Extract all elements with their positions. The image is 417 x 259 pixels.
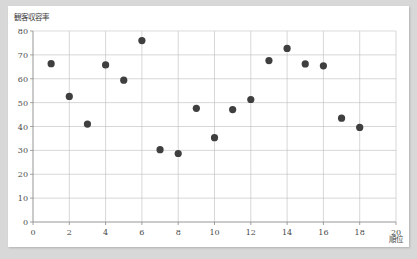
data-point[interactable]	[193, 105, 200, 112]
x-tick-label: 16	[318, 228, 328, 237]
data-point[interactable]	[84, 121, 91, 128]
y-tick-label: 80	[18, 27, 28, 36]
data-point[interactable]	[229, 106, 236, 113]
data-point[interactable]	[48, 60, 55, 67]
x-tick-label: 4	[103, 228, 108, 237]
x-tick-label: 6	[139, 228, 144, 237]
x-tick-label: 8	[176, 228, 181, 237]
data-point[interactable]	[338, 115, 345, 122]
data-point[interactable]	[138, 37, 145, 44]
data-point[interactable]	[175, 150, 182, 157]
y-axis-title: 観客収容率	[14, 12, 50, 22]
data-point[interactable]	[120, 77, 127, 84]
screenshot-root: 01020304050607080 02468101214161820 観客収容…	[0, 0, 417, 259]
data-point[interactable]	[302, 60, 309, 67]
y-tick-label: 0	[23, 218, 28, 227]
x-axis-title: 順位	[389, 234, 404, 244]
data-point[interactable]	[156, 146, 163, 153]
y-tick-label: 30	[18, 146, 28, 155]
x-axis-tick-labels: 02468101214161820	[30, 222, 401, 237]
data-point[interactable]	[265, 57, 272, 64]
y-tick-label: 10	[18, 194, 28, 203]
x-tick-label: 10	[209, 228, 219, 237]
y-tick-label: 20	[18, 170, 28, 179]
data-point[interactable]	[320, 62, 327, 69]
scatter-chart[interactable]: 01020304050607080 02468101214161820 観客収容…	[8, 6, 409, 247]
x-tick-label: 14	[282, 228, 292, 237]
data-point[interactable]	[102, 61, 109, 68]
y-tick-label: 50	[18, 99, 28, 108]
data-point[interactable]	[356, 124, 363, 131]
data-point[interactable]	[284, 45, 291, 52]
x-tick-label: 12	[246, 228, 256, 237]
x-tick-label: 2	[67, 228, 72, 237]
y-tick-label: 60	[18, 75, 28, 84]
x-tick-label: 18	[355, 228, 365, 237]
data-point[interactable]	[247, 96, 254, 103]
y-axis-tick-labels: 01020304050607080	[18, 27, 33, 227]
data-point[interactable]	[211, 134, 218, 141]
data-point[interactable]	[66, 93, 73, 100]
y-tick-label: 40	[18, 123, 28, 132]
x-tick-label: 0	[30, 228, 35, 237]
chart-card: 01020304050607080 02468101214161820 観客収容…	[8, 6, 409, 247]
y-tick-label: 70	[18, 51, 28, 60]
